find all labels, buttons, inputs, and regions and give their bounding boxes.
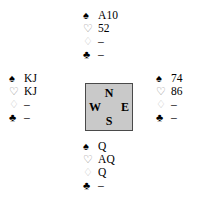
hand-west-diamonds-row: ♢ – — [9, 98, 37, 111]
hand-north-hearts-cards: 52 — [96, 22, 110, 35]
hand-north-clubs-cards: – — [96, 48, 104, 61]
diamond-icon: ♢ — [83, 35, 96, 48]
hand-east-hearts-cards: 86 — [169, 85, 183, 98]
hand-south-spades-row: ♠ Q — [83, 140, 115, 153]
hand-south: ♠ Q ♡ AQ ♢ Q ♣ – — [83, 140, 115, 192]
diamond-icon: ♢ — [83, 166, 96, 179]
hand-east-clubs-cards: – — [169, 111, 177, 124]
hand-east-hearts-row: ♡ 86 — [156, 85, 183, 98]
diamond-icon: ♢ — [9, 98, 22, 111]
hand-north-spades-row: ♠ A10 — [83, 9, 118, 22]
hand-east-spades-row: ♠ 74 — [156, 72, 183, 85]
hand-north-hearts-row: ♡ 52 — [83, 22, 118, 35]
hand-south-hearts-row: ♡ AQ — [83, 153, 115, 166]
hand-east-clubs-row: ♣ – — [156, 111, 183, 124]
heart-icon: ♡ — [83, 153, 96, 166]
hand-west-clubs-cards: – — [22, 111, 30, 124]
spade-icon: ♠ — [156, 72, 169, 85]
bridge-hand-diagram: ♠ A10 ♡ 52 ♢ – ♣ – ♠ KJ ♡ KJ ♢ – ♣ — [0, 0, 197, 207]
hand-north-clubs-row: ♣ – — [83, 48, 118, 61]
heart-icon: ♡ — [9, 85, 22, 98]
heart-icon: ♡ — [83, 22, 96, 35]
hand-east-diamonds-row: ♢ – — [156, 98, 183, 111]
hand-south-hearts-cards: AQ — [96, 153, 115, 166]
hand-south-diamonds-row: ♢ Q — [83, 166, 115, 179]
hand-north-diamonds-row: ♢ – — [83, 35, 118, 48]
hand-north-spades-cards: A10 — [96, 9, 118, 22]
club-icon: ♣ — [156, 111, 169, 124]
spade-icon: ♠ — [9, 72, 22, 85]
spade-icon: ♠ — [83, 140, 96, 153]
club-icon: ♣ — [83, 48, 96, 61]
hand-west-diamonds-cards: – — [22, 98, 30, 111]
hand-south-diamonds-cards: Q — [96, 166, 106, 179]
spade-icon: ♠ — [83, 9, 96, 22]
hand-east-spades-cards: 74 — [169, 72, 183, 85]
hand-east-diamonds-cards: – — [169, 98, 177, 111]
hand-west: ♠ KJ ♡ KJ ♢ – ♣ – — [9, 72, 37, 124]
club-icon: ♣ — [9, 111, 22, 124]
hand-west-clubs-row: ♣ – — [9, 111, 37, 124]
hand-west-hearts-row: ♡ KJ — [9, 85, 37, 98]
club-icon: ♣ — [83, 179, 96, 192]
hand-north-diamonds-cards: – — [96, 35, 104, 48]
hand-south-clubs-cards: – — [96, 179, 104, 192]
compass-south-label: S — [86, 115, 132, 127]
heart-icon: ♡ — [156, 85, 169, 98]
hand-south-spades-cards: Q — [96, 140, 106, 153]
hand-north: ♠ A10 ♡ 52 ♢ – ♣ – — [83, 9, 118, 61]
compass-box: N W E S — [85, 83, 133, 131]
diamond-icon: ♢ — [156, 98, 169, 111]
hand-west-spades-cards: KJ — [22, 72, 37, 85]
hand-east: ♠ 74 ♡ 86 ♢ – ♣ – — [156, 72, 183, 124]
hand-west-hearts-cards: KJ — [22, 85, 37, 98]
hand-south-clubs-row: ♣ – — [83, 179, 115, 192]
hand-west-spades-row: ♠ KJ — [9, 72, 37, 85]
